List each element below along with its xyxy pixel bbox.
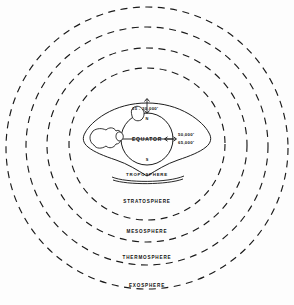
layer-label-mesosphere: MESOSPHERE	[127, 229, 168, 234]
atmosphere-layers-diagram: EQUATOR N S 25 - 30,000' 50,000' 65,000'…	[0, 0, 294, 305]
equatorial-altitude-lower-label: 50,000'	[178, 132, 194, 137]
layer-label-exosphere: EXOSPHERE	[129, 283, 165, 288]
layer-label-thermosphere: THERMOSPHERE	[123, 255, 172, 260]
layer-label-stratosphere: STRATOSPHERE	[123, 199, 171, 204]
north-pole-label: N	[146, 116, 149, 121]
equatorial-altitude-upper-label: 65,000'	[178, 140, 194, 145]
equator-label: EQUATOR	[132, 136, 162, 142]
landmass-west-inner	[116, 132, 123, 141]
south-pole-label: S	[146, 157, 149, 162]
polar-altitude-label: 25 - 30,000'	[132, 106, 158, 111]
atmosphere-diagram-canvas: EQUATOR N S 25 - 30,000' 50,000' 65,000'…	[0, 0, 294, 305]
layer-label-troposphere: TROPOSPHERE	[126, 172, 168, 177]
